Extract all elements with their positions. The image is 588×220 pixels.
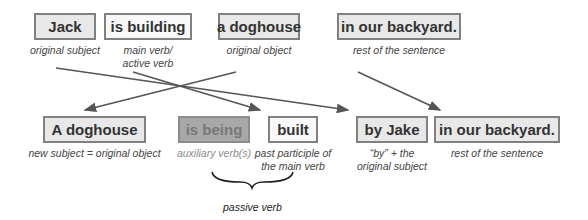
caption-in-our-backyard-new: rest of the sentence — [407, 147, 587, 160]
word-box-is-building: is building — [104, 13, 192, 40]
arrow-jack-to-by-jake — [56, 68, 348, 110]
passive-verb-label: passive verb — [212, 201, 293, 214]
arrow-is-building-to-built — [133, 72, 260, 110]
word-box-built: built — [268, 116, 318, 143]
word-box-jack: Jack — [34, 13, 96, 40]
word-box-in-our-backyard: in our backyard. — [337, 13, 461, 40]
word-box-in-our-backyard-new: in our backyard. — [434, 116, 560, 143]
brace-icon — [212, 172, 293, 188]
word-box-a-doghouse: a doghouse — [218, 13, 300, 40]
word-box-is-being: is being — [178, 116, 250, 143]
word-box-a-doghouse-new: A doghouse — [43, 116, 146, 143]
arrow-in-our-backyard-to-in-our-backyard-new — [358, 72, 440, 110]
word-box-by-jake: by Jake — [356, 116, 428, 143]
caption-in-our-backyard: rest of the sentence — [309, 44, 489, 57]
